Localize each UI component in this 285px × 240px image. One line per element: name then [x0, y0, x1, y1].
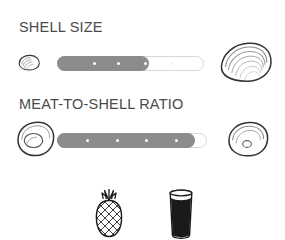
oyster-tasting-card: SHELL SIZE — [0, 0, 285, 240]
slider-track-shell-size[interactable] — [57, 56, 204, 71]
pineapple-icon — [89, 184, 129, 240]
slider-tick — [175, 139, 178, 142]
stout-glass-icon — [165, 188, 197, 240]
slider-fill-shell-size — [57, 56, 149, 71]
small-oyster-shell-icon — [16, 51, 42, 77]
page-title-shell-size: SHELL SIZE — [19, 19, 103, 35]
slider-tick — [144, 62, 147, 65]
oyster-full-meat-icon — [14, 119, 58, 163]
oyster-small-meat-icon — [225, 119, 273, 163]
slider-tick — [171, 62, 174, 65]
pairing-icon-row — [0, 182, 285, 240]
slider-tick — [93, 62, 96, 65]
slider-tick — [116, 139, 119, 142]
slider-row-meat-ratio — [0, 117, 285, 165]
slider-track-meat-ratio[interactable] — [57, 133, 207, 148]
large-oyster-shell-icon — [217, 39, 275, 89]
slider-row-shell-size — [0, 40, 285, 88]
page-title-meat-ratio: MEAT-TO-SHELL RATIO — [19, 96, 183, 112]
